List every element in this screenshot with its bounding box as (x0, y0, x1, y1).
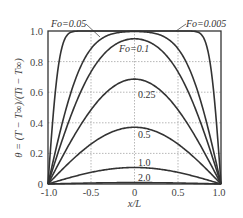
y-tick-5: 1.0 (30, 26, 43, 37)
temperature-profile-chart: 0 0.2 0.4 0.6 0.8 1.0 -1.0 -0.5 0 0.5 1.… (0, 0, 243, 218)
x-tick-labels: -1.0 -0.5 0 0.5 1.0 (41, 187, 226, 198)
label-fo-2.0: 2.0 (138, 172, 151, 183)
leader-fo-0.005 (176, 24, 186, 31)
y-tick-labels: 0 0.2 0.4 0.6 0.8 1.0 (30, 26, 44, 190)
label-fo-0.005: Fo=0.005 (185, 18, 226, 29)
y-axis-label: θ = (T − T∞)/(Ti − T∞) (13, 58, 25, 158)
label-fo-0.25: 0.25 (138, 89, 156, 100)
y-tick-2: 0.4 (30, 118, 44, 129)
x-tick-0: -1.0 (41, 187, 58, 198)
label-fo-1.0: 1.0 (138, 157, 151, 168)
y-tick-4: 0.8 (30, 57, 43, 68)
curve-fo-0.1 (48, 39, 221, 184)
x-tick-2: 0 (132, 187, 137, 198)
label-fo-0.05: Fo=0.05 (50, 18, 86, 29)
label-fo-0.1: Fo=0.1 (118, 43, 149, 54)
y-tick-3: 0.6 (30, 87, 43, 98)
x-tick-1: -0.5 (83, 187, 100, 198)
x-tick-3: 0.5 (171, 187, 184, 198)
label-fo-0.5: 0.5 (138, 129, 151, 140)
y-tick-1: 0.2 (30, 148, 43, 159)
x-tick-4: 1.0 (212, 187, 225, 198)
x-axis-label: x/L (127, 198, 142, 209)
